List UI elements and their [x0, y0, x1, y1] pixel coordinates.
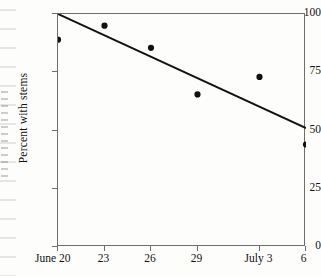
- x-tick-day: 23: [98, 252, 110, 264]
- data-point: [303, 141, 306, 147]
- x-tick-mark: [197, 246, 198, 251]
- trend-line: [58, 14, 306, 128]
- x-tick-mark: [305, 246, 306, 251]
- x-tick-label: 26: [144, 253, 156, 265]
- x-tick-mark: [259, 246, 260, 251]
- x-tick-day: 29: [191, 252, 203, 264]
- x-tick-label: July3: [245, 253, 273, 265]
- x-tick-day: 6: [301, 252, 307, 264]
- x-tick-mark: [57, 246, 58, 251]
- data-point: [58, 37, 61, 43]
- plot-canvas: [58, 14, 306, 247]
- chart-figure: Percent with stems 0255075100 June202326…: [0, 0, 321, 276]
- x-tick-day: 20: [59, 252, 71, 264]
- x-tick-day: 26: [144, 252, 156, 264]
- data-point: [194, 91, 200, 97]
- x-tick-mark: [150, 246, 151, 251]
- data-points: [58, 23, 306, 148]
- data-point: [101, 23, 107, 29]
- y-axis-title: Percent with stems: [17, 48, 29, 188]
- data-point: [256, 74, 262, 80]
- x-tick-label: 6: [301, 253, 307, 265]
- plot-area: [57, 13, 305, 246]
- x-tick-label: 23: [98, 253, 110, 265]
- x-tick-label: 29: [191, 253, 203, 265]
- x-tick-day: 3: [267, 252, 273, 264]
- x-tick-month: July: [245, 252, 264, 264]
- x-tick-month: June: [35, 252, 56, 264]
- x-tick-mark: [104, 246, 105, 251]
- scan-artifact-speckle-secondary: [1, 86, 8, 178]
- regression-line: [58, 14, 306, 128]
- data-point: [148, 45, 154, 51]
- x-tick-label: June20: [35, 253, 71, 265]
